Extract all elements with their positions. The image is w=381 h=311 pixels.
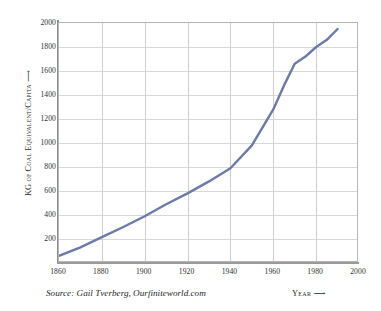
source-caption: Source: Gail Tverberg, Ourfiniteworld.co… [46,288,206,298]
energy-per-capita-line [59,29,338,256]
y-tick-label: 1400 [22,90,56,99]
x-axis-tick-labels: 18601880190019201940196019802000 [58,267,358,281]
x-tick-label: 1940 [209,267,249,276]
y-tick-label: 200 [22,234,56,243]
y-tick-label: 1200 [22,114,56,123]
x-tick-label: 1860 [38,267,78,276]
x-tick-label: 1980 [295,267,335,276]
energy-per-capita-line-svg [59,23,359,263]
x-tick-label: 1960 [252,267,292,276]
y-tick-label: 2000 [22,18,56,27]
x-tick-label: 1900 [124,267,164,276]
data-layer [59,23,357,261]
y-tick-label: 800 [22,162,56,171]
x-axis-title: Year ⟶ [292,288,326,298]
y-tick-label: 1000 [22,138,56,147]
y-tick-label: 1800 [22,42,56,51]
y-tick-label: 400 [22,210,56,219]
y-tick-label: 600 [22,186,56,195]
y-axis-tick-labels: 200400600800100012001400160018002000 [22,22,56,262]
x-tick-label: 2000 [338,267,378,276]
y-tick-label: 1600 [22,66,56,75]
chart-figure: KG of Coal Equivalent/Capita ⟶ 200400600… [0,0,381,311]
x-tick-label: 1880 [81,267,121,276]
x-tick-label: 1920 [167,267,207,276]
plot-area [58,22,358,262]
